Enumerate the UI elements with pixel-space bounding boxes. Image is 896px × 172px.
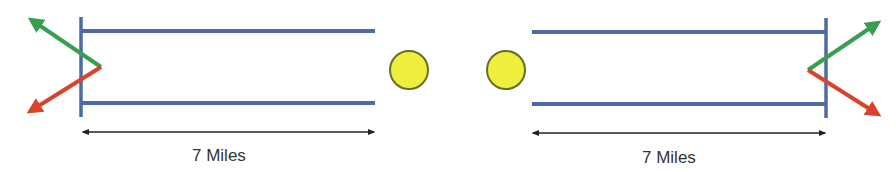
red-arrow-icon	[808, 70, 876, 113]
right-track	[532, 18, 826, 118]
left-distance-label: 7 Miles	[192, 146, 246, 166]
diagram-canvas	[0, 0, 896, 172]
right-distance-label: 7 Miles	[642, 148, 696, 168]
green-arrow-icon	[33, 21, 101, 67]
right-vector-arrows	[808, 24, 876, 113]
right-yellow-ball	[487, 51, 525, 89]
left-vector-arrows	[32, 21, 101, 110]
left-track	[81, 17, 375, 117]
left-yellow-ball	[390, 51, 428, 89]
